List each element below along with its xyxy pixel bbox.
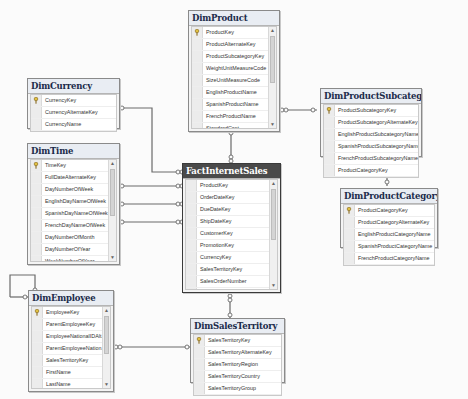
column-row[interactable]: EnglishProductCategoryName (344, 229, 434, 241)
scroll-down-icon[interactable]: ▼ (269, 121, 276, 128)
column-row[interactable]: SalesOrderNumber (186, 276, 277, 288)
column-row[interactable]: ProductCategoryKey (324, 165, 418, 177)
column-row[interactable]: ProductSubcategoryKey (192, 51, 276, 63)
column-row[interactable]: SizeUnitMeasureCode (192, 75, 276, 87)
column-list: SalesTerritoryKey SalesTerritoryAlternat… (193, 334, 282, 396)
scrollbar[interactable]: ▲▼ (268, 27, 276, 128)
column-row[interactable]: FrenchProductCategoryName (344, 253, 434, 265)
column-row[interactable]: EnglishProductName (192, 87, 276, 99)
scroll-thumb[interactable] (270, 36, 275, 83)
column-row[interactable]: CurrencyName (31, 119, 116, 131)
column-row[interactable]: SpanishProductCategoryName (344, 241, 434, 253)
column-row[interactable]: SalesOrderLineNumber (186, 288, 277, 290)
column-row[interactable]: DayNumberOfWeek (31, 184, 116, 196)
column-row[interactable]: CustomerKey (186, 228, 277, 240)
column-row[interactable]: ProductKey (186, 180, 277, 192)
table-title[interactable]: FactInternetSales (183, 164, 280, 179)
column-row[interactable]: WeekNumberOfYear (31, 256, 116, 262)
table-title[interactable]: DimProduct (189, 11, 279, 26)
column-row[interactable]: ShipDateKey (186, 216, 277, 228)
column-row[interactable]: SalesTerritoryAlternateKey (194, 347, 281, 359)
column-row[interactable]: CurrencyKey (186, 252, 277, 264)
table-title[interactable]: DimTime (28, 144, 119, 159)
column-row[interactable]: SalesTerritoryRegion (194, 359, 281, 371)
column-row[interactable]: SpanishProductSubcategoryName (324, 141, 418, 153)
key-icon (326, 107, 332, 114)
scroll-thumb[interactable] (110, 169, 115, 216)
column-row[interactable]: ParentEmployeeNation... (32, 343, 110, 355)
scroll-up-icon[interactable]: ▲ (270, 180, 277, 187)
column-row[interactable]: EmployeeKey (32, 307, 110, 319)
diagram-canvas[interactable]: DimProduct ProductKey ProductAlternateKe… (0, 0, 468, 399)
column-row[interactable]: TimeKey (31, 160, 116, 172)
table-factinternetsales[interactable]: FactInternetSales ProductKey OrderDateKe… (182, 163, 281, 293)
column-list: TimeKey FullDateAlternateKey DayNumberOf… (30, 159, 117, 262)
scroll-up-icon[interactable]: ▲ (109, 160, 116, 167)
column-row[interactable]: FirstName (32, 367, 110, 379)
scroll-down-icon[interactable]: ▼ (109, 254, 116, 261)
table-title[interactable]: DimProductSubcategory (321, 89, 421, 104)
column-row[interactable]: SalesTerritoryCountry (194, 371, 281, 383)
column-row[interactable]: DayNumberOfMonth (31, 232, 116, 244)
column-list: ProductSubcategoryKey ProductSubcategory… (323, 104, 419, 178)
column-row[interactable]: EnglishDayNameOfWeek (31, 196, 116, 208)
column-list: ProductKey ProductAlternateKey ProductSu… (191, 26, 277, 129)
table-dimcurrency[interactable]: DimCurrency CurrencyKey CurrencyAlternat… (27, 78, 120, 129)
scroll-thumb[interactable] (104, 316, 109, 354)
scroll-thumb[interactable] (271, 189, 276, 240)
column-row[interactable]: ProductKey (192, 27, 276, 39)
table-dimemployee[interactable]: DimEmployee EmployeeKey ParentEmployeeKe… (28, 290, 114, 392)
table-dimproduct[interactable]: DimProduct ProductKey ProductAlternateKe… (188, 10, 280, 132)
scroll-down-icon[interactable]: ▼ (103, 381, 110, 388)
scrollbar[interactable]: ▲▼ (269, 180, 277, 289)
column-row[interactable]: SalesTerritoryKey (194, 335, 281, 347)
scrollbar[interactable]: ▲▼ (108, 160, 116, 261)
column-row[interactable]: ParentEmployeeKey (32, 319, 110, 331)
column-row[interactable]: CurrencyAlternateKey (31, 107, 116, 119)
column-list: ProductCategoryKey ProductCategoryAltern… (343, 204, 435, 266)
column-row[interactable]: ProductAlternateKey (192, 39, 276, 51)
column-row[interactable]: FrenchProductName (192, 111, 276, 123)
column-row[interactable]: SpanishProductName (192, 99, 276, 111)
key-icon (33, 162, 39, 169)
column-row[interactable]: LastName (32, 379, 110, 389)
column-row[interactable]: SalesTerritoryKey (186, 264, 277, 276)
column-list: EmployeeKey ParentEmployeeKey EmployeeNa… (31, 306, 111, 389)
column-row[interactable]: FrenchProductSubcategoryName (324, 153, 418, 165)
column-row[interactable]: WeightUnitMeasureCode (192, 63, 276, 75)
column-row[interactable]: SpanishDayNameOfWeek (31, 208, 116, 220)
column-row[interactable]: ProductCategoryAlternateKey (344, 217, 434, 229)
scrollbar[interactable]: ▲▼ (102, 307, 110, 388)
column-row[interactable]: FrenchDayNameOfWeek (31, 220, 116, 232)
table-title[interactable]: DimSalesTerritory (191, 319, 284, 334)
key-icon (194, 29, 200, 36)
table-title[interactable]: DimEmployee (29, 291, 113, 306)
column-row[interactable]: FullDateAlternateKey (31, 172, 116, 184)
column-row[interactable]: CurrencyKey (31, 95, 116, 107)
column-row[interactable]: SalesTerritoryGroup (194, 383, 281, 395)
scroll-down-icon[interactable]: ▼ (270, 282, 277, 289)
scroll-up-icon[interactable]: ▲ (103, 307, 110, 314)
column-list: ProductKey OrderDateKey DueDateKey ShipD… (185, 179, 278, 290)
column-row[interactable]: ProductSubcategoryAlternateKey (324, 117, 418, 129)
table-title[interactable]: DimProductCategory (341, 189, 437, 204)
column-row[interactable]: ProductSubcategoryKey (324, 105, 418, 117)
column-row[interactable]: OrderDateKey (186, 192, 277, 204)
key-icon (196, 337, 202, 344)
column-row[interactable]: DueDateKey (186, 204, 277, 216)
table-dimsalesterritory[interactable]: DimSalesTerritory SalesTerritoryKey Sale… (190, 318, 285, 383)
table-dimproductcategory[interactable]: DimProductCategory ProductCategoryKey Pr… (340, 188, 438, 248)
column-row[interactable]: SalesTerritoryKey (32, 355, 110, 367)
table-dimtime[interactable]: DimTime TimeKey FullDateAlternateKey Day… (27, 143, 120, 265)
table-title[interactable]: DimCurrency (28, 79, 119, 94)
column-row[interactable]: PromotionKey (186, 240, 277, 252)
scroll-up-icon[interactable]: ▲ (269, 27, 276, 34)
key-icon (346, 207, 352, 214)
column-row[interactable]: StandardCost (192, 123, 276, 129)
table-dimproductsubcategory[interactable]: DimProductSubcategory ProductSubcategory… (320, 88, 422, 157)
column-row[interactable]: EnglishProductSubcategoryName (324, 129, 418, 141)
key-icon (33, 97, 39, 104)
column-row[interactable]: ProductCategoryKey (344, 205, 434, 217)
column-row[interactable]: DayNumberOfYear (31, 244, 116, 256)
column-row[interactable]: EmployeeNationalIDAlt... (32, 331, 110, 343)
